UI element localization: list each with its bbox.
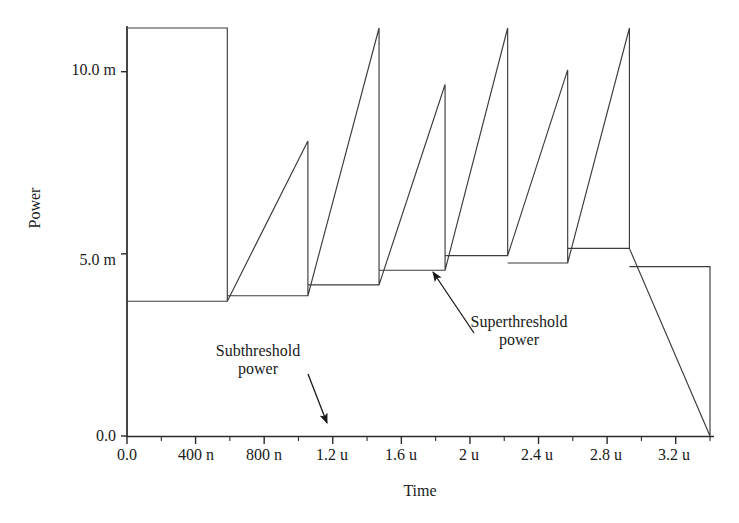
x-axis-title: Time	[403, 482, 436, 500]
xtick-label-2p4u: 2.4 u	[521, 446, 553, 464]
xtick-label-2p8u: 2.8 u	[590, 446, 622, 464]
annotation-superthreshold: Superthreshold power	[471, 313, 568, 349]
x-minor-tick-marks	[161, 437, 710, 441]
xtick-label-1p6u: 1.6 u	[385, 446, 417, 464]
xtick-label-400n: 400 n	[178, 446, 214, 464]
annotation-superthreshold-line1: Superthreshold	[471, 313, 568, 330]
xtick-label-2u: 2 u	[459, 446, 479, 464]
superthreshold-arrow	[433, 272, 474, 333]
y-tick-marks	[121, 72, 127, 436]
ytick-label-5m: 5.0 m	[32, 251, 116, 269]
y-axis-title: Power	[26, 148, 44, 268]
annotation-arrows	[308, 272, 474, 423]
axis-lines	[126, 26, 714, 437]
xtick-label-3p2u: 3.2 u	[658, 446, 690, 464]
annotation-subthreshold-line1: Subthreshold	[216, 342, 300, 359]
annotation-subthreshold-line2: power	[238, 360, 278, 377]
chart-figure: 10.0 m 5.0 m 0.0 0.0 400 n 800 n 1.2 u 1…	[0, 0, 739, 523]
xtick-label-800n: 800 n	[246, 446, 282, 464]
power-waveform-trace	[127, 28, 710, 436]
xtick-label-0: 0.0	[117, 446, 137, 464]
ytick-label-10m: 10.0 m	[32, 61, 116, 79]
annotation-superthreshold-line2: power	[499, 331, 539, 348]
ytick-label-0: 0.0	[32, 427, 116, 445]
subthreshold-arrow	[308, 374, 327, 423]
annotation-subthreshold: Subthreshold power	[216, 342, 300, 378]
x-tick-marks	[127, 437, 676, 444]
xtick-label-1p2u: 1.2 u	[316, 446, 348, 464]
